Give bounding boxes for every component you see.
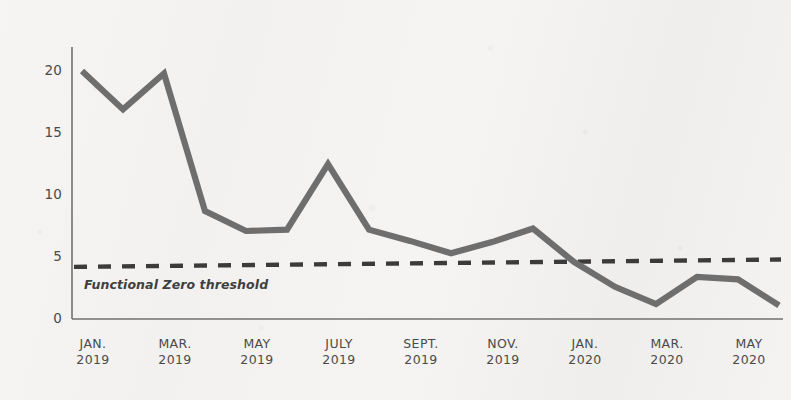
x-tick-label-year: 2020 bbox=[650, 352, 683, 367]
x-tick-label-month: MAR. bbox=[158, 336, 191, 351]
y-axis-tick-labels: 20 15 10 5 0 bbox=[44, 62, 62, 326]
x-tick-label-year: 2019 bbox=[322, 352, 355, 367]
y-tick-label: 10 bbox=[44, 186, 62, 202]
threshold-annotation-label: Functional Zero threshold bbox=[84, 277, 269, 292]
line-chart: 20 15 10 5 0 JAN. 2019 MAR. 2019 MAY 201… bbox=[0, 0, 791, 400]
x-tick-label-month: MAR. bbox=[650, 336, 683, 351]
x-tick-label-month: NOV. bbox=[487, 336, 518, 351]
y-tick-label: 0 bbox=[53, 310, 62, 326]
x-tick-label-year: 2019 bbox=[240, 352, 273, 367]
x-tick-label-month: JAN. bbox=[571, 336, 599, 351]
x-tick-label-year: 2020 bbox=[568, 352, 601, 367]
x-axis-tick-labels: JAN. 2019 MAR. 2019 MAY 2019 JULY 2019 S… bbox=[76, 336, 765, 367]
y-tick-label: 20 bbox=[44, 62, 62, 78]
y-tick-label: 5 bbox=[53, 248, 62, 264]
y-tick-label: 15 bbox=[44, 124, 62, 140]
data-series-line bbox=[82, 71, 779, 305]
x-tick-label-year: 2019 bbox=[76, 352, 109, 367]
functional-zero-threshold-line bbox=[74, 260, 781, 267]
x-tick-label-year: 2019 bbox=[486, 352, 519, 367]
x-tick-label-month: JULY bbox=[324, 336, 352, 351]
x-tick-label-month: MAY bbox=[735, 336, 762, 351]
chart-page: 20 15 10 5 0 JAN. 2019 MAR. 2019 MAY 201… bbox=[0, 0, 791, 400]
x-tick-label-month: SEPT. bbox=[403, 336, 439, 351]
x-tick-label-year: 2020 bbox=[732, 352, 765, 367]
x-tick-label-month: JAN. bbox=[79, 336, 107, 351]
x-tick-label-month: MAY bbox=[243, 336, 270, 351]
x-tick-label-year: 2019 bbox=[158, 352, 191, 367]
x-tick-label-year: 2019 bbox=[404, 352, 437, 367]
